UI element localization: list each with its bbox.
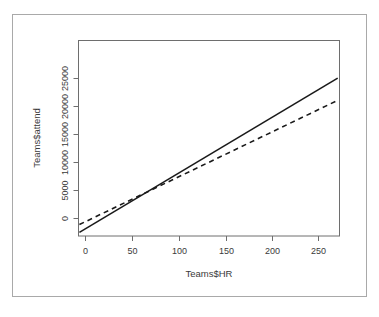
y-axis-ticks <box>74 79 79 219</box>
x-tick-label-250: 250 <box>311 246 326 256</box>
x-tick-label-0: 0 <box>83 246 88 256</box>
x-tick-label-100: 100 <box>172 246 187 256</box>
y-tick-label-10000: 10000 <box>60 150 70 175</box>
y-axis-title: Teams$attend <box>31 108 42 168</box>
r-plot-figure: 0 50 100 150 200 250 0 5000 10000 15000 … <box>0 0 379 317</box>
y-tick-label-0: 0 <box>60 216 70 221</box>
x-tick-label-200: 200 <box>265 246 280 256</box>
plot-box-border <box>79 41 340 237</box>
x-axis-title: Teams$HR <box>186 268 233 279</box>
x-tick-label-150: 150 <box>219 246 234 256</box>
y-tick-label-25000: 25000 <box>60 66 70 91</box>
x-tick-label-50: 50 <box>127 246 137 256</box>
y-tick-label-20000: 20000 <box>60 94 70 119</box>
solid-regression-line <box>79 78 337 232</box>
plot-canvas: 0 50 100 150 200 250 0 5000 10000 15000 … <box>0 0 379 317</box>
x-axis-ticks <box>86 236 319 241</box>
dashed-regression-line <box>79 100 337 224</box>
data-lines-group <box>79 78 337 232</box>
y-tick-label-15000: 15000 <box>60 122 70 147</box>
y-tick-label-5000: 5000 <box>60 180 70 200</box>
